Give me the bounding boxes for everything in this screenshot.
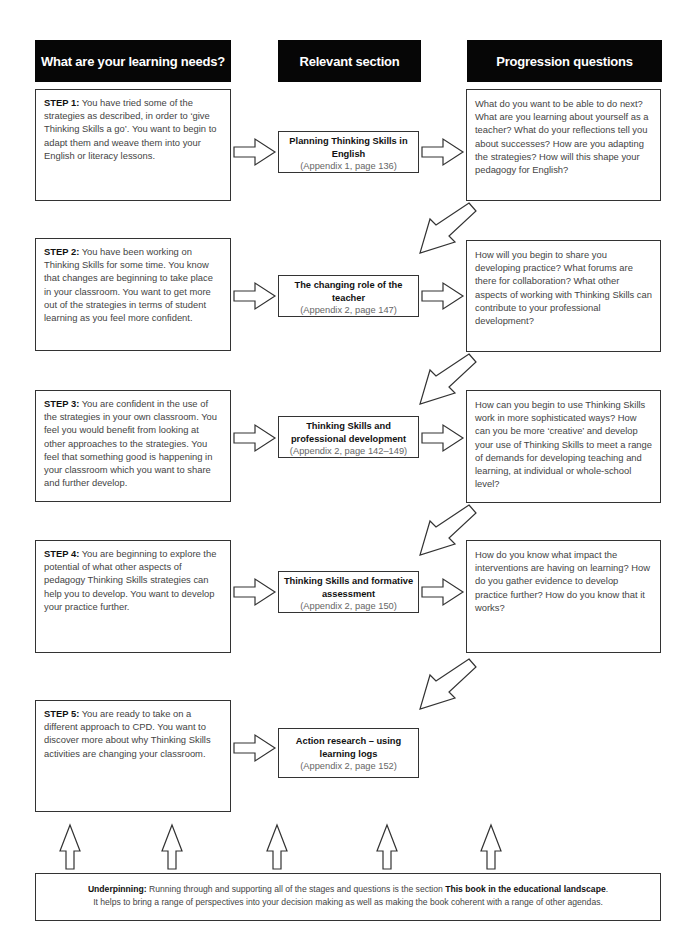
section-box-5: Action research – using learning logs (A…	[278, 728, 419, 778]
section-box-2: The changing role of the teacher (Append…	[278, 275, 419, 317]
up-arrow-icon	[161, 824, 183, 870]
right-arrow-icon	[233, 734, 277, 762]
right-arrow-icon	[421, 282, 465, 310]
section-title: Planning Thinking Skills in English	[281, 135, 416, 160]
questions-box-2: How will you begin to share you developi…	[466, 240, 661, 352]
diagonal-arrow-icon	[417, 658, 477, 712]
diagonal-arrow-icon	[417, 353, 477, 407]
underpinning-line-2: It helps to bring a range of perspective…	[36, 896, 660, 909]
underpinning-section-name: This book in the educational landscape	[445, 884, 605, 894]
step-label: STEP 5:	[44, 708, 79, 719]
up-arrow-icon	[266, 824, 288, 870]
header-learning-needs: What are your learning needs?	[35, 40, 231, 82]
up-arrow-icon	[376, 824, 398, 870]
step-3-box: STEP 3: You are confident in the use of …	[35, 390, 231, 502]
underpinning-box: Underpinning: Running through and suppor…	[35, 873, 661, 921]
step-label: STEP 1:	[44, 97, 79, 108]
section-ref: (Appendix 2, page 150)	[281, 600, 416, 613]
underpinning-label: Underpinning:	[88, 884, 147, 894]
header-relevant-section: Relevant section	[278, 40, 421, 82]
diagonal-arrow-icon	[417, 202, 477, 256]
step-text: You are confident in the use of the stra…	[44, 398, 217, 488]
right-arrow-icon	[233, 138, 277, 166]
right-arrow-icon	[233, 578, 277, 606]
questions-box-3: How can you begin to use Thinking Skills…	[466, 390, 661, 503]
right-arrow-icon	[233, 282, 277, 310]
section-ref: (Appendix 1, page 136)	[281, 160, 416, 173]
diagonal-arrow-icon	[417, 504, 477, 558]
section-title: Thinking Skills and professional develop…	[281, 420, 416, 445]
underpinning-line-1: Underpinning: Running through and suppor…	[36, 883, 660, 896]
section-ref: (Appendix 2, page 152)	[281, 760, 416, 773]
step-4-box: STEP 4: You are beginning to explore the…	[35, 540, 231, 653]
step-1-box: STEP 1: You have tried some of the strat…	[35, 89, 231, 201]
section-box-3: Thinking Skills and professional develop…	[278, 416, 419, 458]
right-arrow-icon	[421, 424, 465, 452]
section-ref: (Appendix 2, page 147)	[281, 304, 416, 317]
section-box-4: Thinking Skills and formative assessment…	[278, 571, 419, 613]
section-title: Action research – using learning logs	[281, 735, 416, 760]
step-5-box: STEP 5: You are ready to take on a diffe…	[35, 700, 231, 812]
questions-box-4: How do you know what impact the interven…	[466, 540, 661, 653]
underpinning-text: Running through and supporting all of th…	[147, 884, 446, 894]
right-arrow-icon	[421, 578, 465, 606]
section-ref: (Appendix 2, page 142–149)	[281, 445, 416, 458]
section-title: The changing role of the teacher	[281, 279, 416, 304]
up-arrow-icon	[480, 824, 502, 870]
step-text: You have been working on Thinking Skills…	[44, 246, 213, 323]
underpinning-period: .	[606, 884, 608, 894]
up-arrow-icon	[59, 824, 81, 870]
right-arrow-icon	[233, 424, 277, 452]
section-title: Thinking Skills and formative assessment	[281, 575, 416, 600]
step-label: STEP 3:	[44, 398, 79, 409]
step-label: STEP 4:	[44, 548, 79, 559]
questions-box-1: What do you want to be able to do next? …	[466, 89, 661, 201]
step-2-box: STEP 2: You have been working on Thinkin…	[35, 238, 231, 351]
step-label: STEP 2:	[44, 246, 79, 257]
section-box-1: Planning Thinking Skills in English (App…	[278, 131, 419, 173]
header-progression-questions: Progression questions	[467, 40, 662, 82]
right-arrow-icon	[421, 138, 465, 166]
